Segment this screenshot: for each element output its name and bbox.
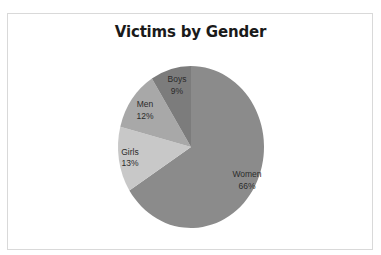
label-boys-name: Boys: [168, 74, 187, 84]
pie-chart: Women 66% Girls 13% Men 12% Boys 9%: [0, 0, 381, 255]
label-men-pct: 12%: [136, 111, 153, 121]
label-women-pct: 66%: [238, 181, 255, 191]
label-girls-name: Girls: [121, 147, 138, 157]
label-men-name: Men: [137, 99, 154, 109]
pie-slices: [118, 66, 264, 228]
label-girls-pct: 13%: [121, 158, 138, 168]
label-women-name: Women: [232, 169, 261, 179]
label-boys-pct: 9%: [171, 86, 184, 96]
